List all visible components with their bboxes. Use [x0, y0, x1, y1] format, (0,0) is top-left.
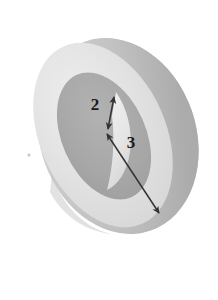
outer-radius-label: 3	[127, 133, 136, 152]
figure-container: 2 3	[0, 0, 218, 300]
inner-radius-label: 2	[91, 95, 100, 114]
stray-dot-mark	[27, 153, 30, 156]
hollow-sphere-diagram: 2 3	[0, 0, 218, 300]
